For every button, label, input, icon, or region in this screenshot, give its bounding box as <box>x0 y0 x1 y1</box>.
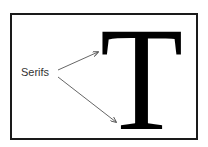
arrow-top-serif <box>58 52 98 70</box>
serifs-diagram: T Serifs <box>0 0 208 147</box>
arrows <box>0 0 208 147</box>
arrow-bottom-serif <box>58 77 116 122</box>
